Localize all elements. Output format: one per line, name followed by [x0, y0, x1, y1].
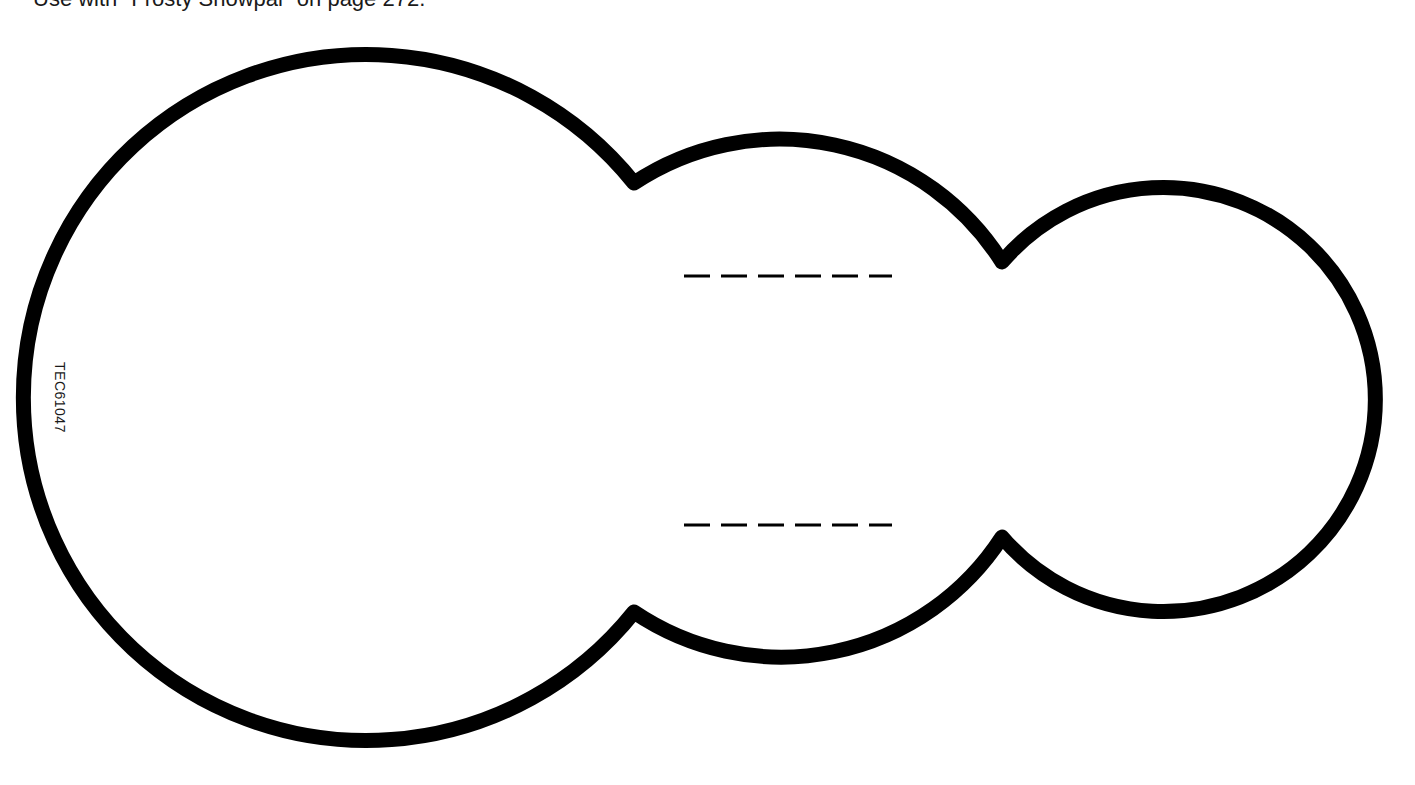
snowman-pattern: [0, 0, 1415, 785]
product-code-label: TEC61047: [52, 362, 68, 433]
snowman-outline: [23, 55, 1375, 741]
